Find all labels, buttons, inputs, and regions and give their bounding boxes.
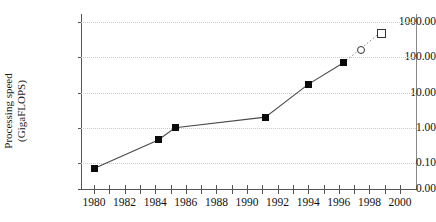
- data-point-marker: [91, 165, 98, 172]
- data-point-marker: [262, 114, 269, 121]
- processing-speed-chart: Processing speed (GigaFLOPS) 0.000.101.0…: [0, 0, 436, 222]
- data-point-marker: [172, 124, 179, 131]
- series-lines: [81, 14, 416, 190]
- measured-line: [94, 63, 343, 169]
- y-axis-title: Processing speed (GigaFLOPS): [0, 0, 30, 222]
- data-point-marker: [155, 136, 162, 143]
- data-point-marker: [305, 81, 312, 88]
- plot-area: [81, 14, 416, 190]
- y-axis-title-line2: (GigaFLOPS): [15, 73, 28, 148]
- x-axis-tick-label: 2000: [380, 196, 420, 209]
- data-point-marker: [340, 59, 347, 66]
- y-axis-title-line1: Processing speed: [2, 73, 15, 148]
- projected-data-point-marker: [377, 29, 386, 38]
